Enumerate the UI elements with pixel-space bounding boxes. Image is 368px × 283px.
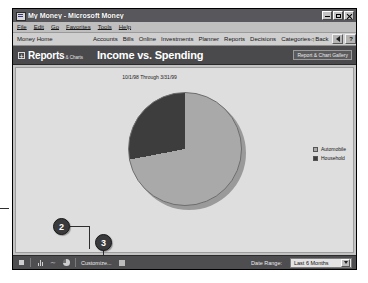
annotation-leader-stub bbox=[0, 208, 9, 209]
window-title: My Money - Microsoft Money bbox=[28, 12, 322, 19]
menu-item-go[interactable]: Go bbox=[51, 24, 59, 30]
nav-money-home[interactable]: Money Home bbox=[17, 36, 93, 42]
bar-chart-icon[interactable] bbox=[36, 259, 44, 267]
stop-icon[interactable] bbox=[17, 259, 25, 267]
nav-item-reports[interactable]: Reports bbox=[224, 36, 245, 42]
callout-2-leader-horizontal bbox=[70, 226, 90, 227]
nav-item-accounts[interactable]: Accounts bbox=[93, 36, 118, 42]
close-button[interactable] bbox=[344, 11, 354, 20]
legend-item-household: Household bbox=[313, 155, 346, 161]
legend-swatch-household bbox=[313, 156, 318, 161]
customize-button[interactable]: Customize... bbox=[81, 260, 112, 266]
nav-item-planner[interactable]: Planner bbox=[198, 36, 219, 42]
nav-item-categories[interactable]: Categories bbox=[281, 36, 310, 42]
speaker-icon[interactable] bbox=[332, 34, 343, 44]
nav-item-decisions[interactable]: Decisions bbox=[250, 36, 276, 42]
menu-item-help[interactable]: Help bbox=[119, 24, 131, 30]
menu-item-file[interactable]: File bbox=[17, 24, 27, 30]
chevron-down-icon[interactable] bbox=[341, 259, 350, 267]
legend-label-household: Household bbox=[321, 155, 345, 161]
screenshot-root: My Money - Microsoft Money File Edit Go … bbox=[0, 0, 368, 283]
reports-text: Reports bbox=[28, 50, 64, 61]
chart-legend: Automobile Household bbox=[313, 146, 346, 161]
toolbar-separator-2 bbox=[75, 258, 76, 267]
report-chart-gallery-button[interactable]: Report & Chart Gallery bbox=[293, 50, 352, 60]
back-button[interactable]: Back bbox=[310, 36, 328, 42]
callout-badge-3: 3 bbox=[95, 234, 112, 251]
page-title: Income vs. Spending bbox=[97, 49, 293, 61]
nav-item-online[interactable]: Online bbox=[139, 36, 156, 42]
line-chart-icon[interactable]: ∼ bbox=[49, 259, 57, 267]
pie-chart[interactable] bbox=[128, 92, 246, 210]
navigation-bar: Money Home Accounts Bills Online Investm… bbox=[13, 33, 356, 46]
chart-toolbar: ∼ Customize... Date Range: Last 6 Months bbox=[13, 255, 356, 269]
charts-subtext: & Charts bbox=[65, 55, 83, 60]
menu-item-tools[interactable]: Tools bbox=[98, 24, 112, 30]
callout-2-leader-vertical bbox=[89, 226, 90, 249]
menu-item-edit[interactable]: Edit bbox=[34, 24, 44, 30]
date-range-value: Last 6 Months bbox=[291, 260, 341, 266]
pie-chart-icon[interactable] bbox=[62, 259, 70, 267]
help-button[interactable]: ? bbox=[345, 34, 356, 44]
title-bar: My Money - Microsoft Money bbox=[13, 9, 356, 22]
toolbar-separator bbox=[30, 258, 31, 267]
callout-badge-2: 2 bbox=[53, 218, 70, 235]
legend-item-automobile: Automobile bbox=[313, 146, 346, 152]
menu-item-favorites[interactable]: Favorites bbox=[66, 24, 91, 30]
nav-links: Accounts Bills Online Investments Planne… bbox=[93, 36, 310, 42]
date-range-select[interactable]: Last 6 Months bbox=[290, 258, 352, 268]
legend-swatch-automobile bbox=[313, 147, 318, 152]
maximize-button[interactable] bbox=[333, 11, 343, 20]
nav-item-investments[interactable]: Investments bbox=[161, 36, 193, 42]
nav-right-controls: Back ? bbox=[310, 34, 356, 44]
date-range-label: Date Range: bbox=[251, 260, 282, 266]
window-controls bbox=[322, 11, 354, 20]
minimize-button[interactable] bbox=[322, 11, 332, 20]
menu-bar: File Edit Go Favorites Tools Help bbox=[13, 22, 356, 33]
plus-box-icon[interactable]: + bbox=[18, 52, 25, 59]
reports-section-label[interactable]: + Reports & Charts bbox=[13, 50, 97, 61]
nav-item-bills[interactable]: Bills bbox=[123, 36, 134, 42]
money-app-icon bbox=[16, 11, 25, 20]
legend-label-automobile: Automobile bbox=[321, 146, 346, 152]
pie-slices[interactable] bbox=[128, 92, 242, 206]
customize-icon[interactable] bbox=[119, 260, 125, 266]
chart-date-range-subtitle: 10/1/98 Through 3/31/99 bbox=[16, 74, 353, 80]
report-header-band: + Reports & Charts Income vs. Spending R… bbox=[13, 46, 356, 65]
